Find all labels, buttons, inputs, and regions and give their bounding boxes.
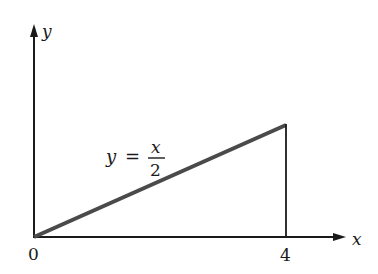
x-axis-label: x [352,229,362,249]
x-axis [33,233,346,241]
x-axis-arrow-icon [333,233,346,241]
equation-numerator: x [151,137,161,157]
function-graph-figure: y x 0 4 y = x 2 [0,0,378,274]
equation-lhs: y [105,146,117,167]
origin-label: 0 [28,244,39,264]
y-axis-arrow-icon [30,24,38,37]
y-axis-label: y [41,21,52,41]
equation-equals: = [125,146,140,167]
x-tick-label-4: 4 [280,245,291,265]
equation-label: y = x 2 [105,137,165,180]
equation-denominator: 2 [150,160,161,180]
y-axis [30,24,38,238]
